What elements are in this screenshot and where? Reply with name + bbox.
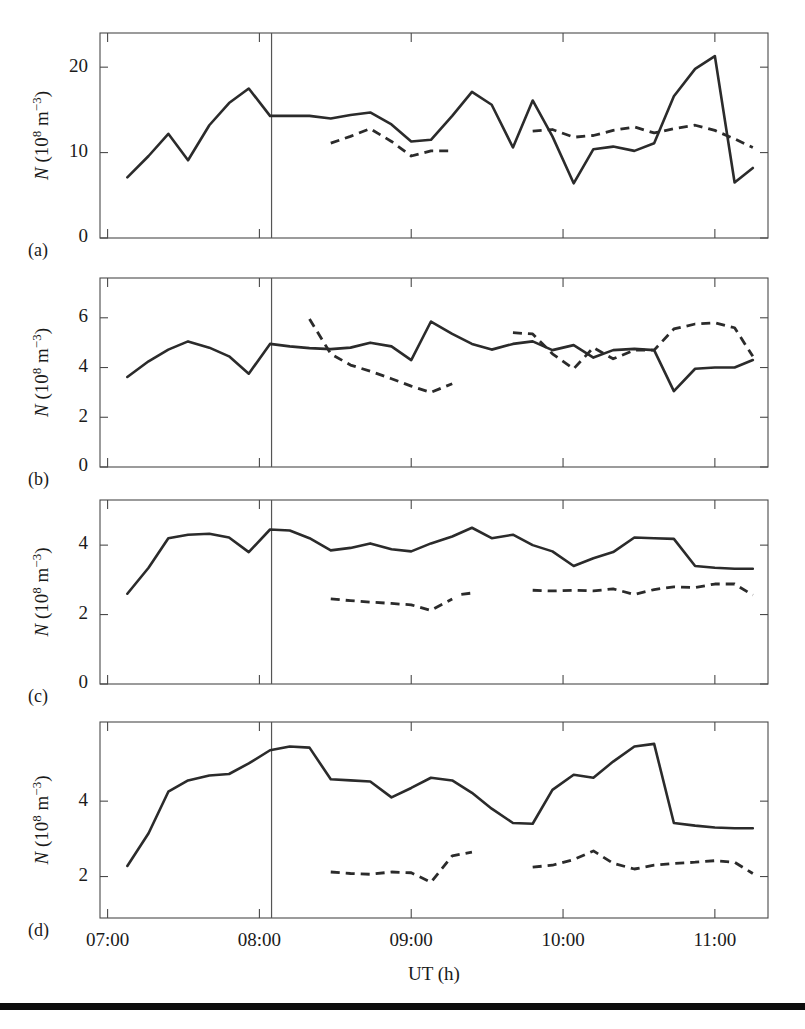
panel-d: 24N (108 m−3)(d) [28, 722, 768, 941]
series-line-dashed [310, 319, 453, 392]
y-tick-label: 10 [69, 140, 88, 161]
y-axis-title: N (108 m−3) [29, 776, 54, 866]
x-tick-label: 08:00 [238, 929, 281, 950]
y-axis-title: N (108 m−3) [29, 548, 54, 638]
y-tick-label: 4 [79, 355, 89, 376]
panel-frame [100, 722, 768, 918]
panel-a: 01020N (108 m−3)(a) [28, 33, 768, 261]
y-axis-title: N (108 m−3) [29, 91, 54, 181]
figure-root: 01020N (108 m−3)(a)0246N (108 m−3)(b)024… [0, 0, 805, 1029]
y-tick-label: 2 [79, 864, 89, 885]
shared-x-axis: 07:0008:0009:0010:0011:00UT (h) [86, 929, 736, 985]
panel-frame [100, 278, 768, 467]
y-axis-title: N (108 m−3) [29, 328, 54, 418]
panel-frame [100, 500, 768, 684]
series-line-dashed [533, 125, 753, 147]
bottom-rule [0, 1003, 805, 1010]
y-tick-label: 6 [79, 305, 89, 326]
series-line-solid [127, 744, 752, 866]
y-tick-label: 2 [79, 602, 89, 623]
y-tick-label: 0 [79, 671, 89, 692]
series-line-dashed [331, 852, 472, 882]
x-axis-title: UT (h) [408, 963, 460, 985]
multi-panel-line-chart: 01020N (108 m−3)(a)0246N (108 m−3)(b)024… [0, 0, 805, 1029]
series-line-solid [127, 56, 752, 183]
series-line-dashed [513, 323, 753, 369]
y-tick-label: 2 [79, 405, 89, 426]
x-tick-label: 11:00 [694, 929, 737, 950]
panels-group: 01020N (108 m−3)(a)0246N (108 m−3)(b)024… [28, 33, 768, 941]
panel-tag-a: (a) [28, 240, 48, 261]
series-line-dashed [533, 584, 753, 595]
series-line-solid [127, 322, 752, 392]
panel-tag-c: (c) [28, 686, 48, 707]
series-line-dashed [331, 129, 452, 156]
y-tick-label: 0 [79, 225, 89, 246]
panel-tag-d: (d) [28, 920, 49, 941]
y-tick-label: 20 [69, 55, 88, 76]
series-line-dashed [331, 599, 452, 610]
x-tick-label: 10:00 [541, 929, 584, 950]
panel-tag-b: (b) [28, 469, 49, 490]
x-tick-label: 09:00 [390, 929, 433, 950]
y-tick-label: 4 [79, 532, 89, 553]
x-tick-label: 07:00 [86, 929, 129, 950]
series-line-dashed [461, 593, 472, 594]
y-tick-label: 0 [79, 454, 89, 475]
y-tick-label: 4 [79, 789, 89, 810]
panel-c: 024N (108 m−3)(c) [28, 500, 768, 707]
series-line-dashed [533, 851, 753, 874]
panel-b: 0246N (108 m−3)(b) [28, 278, 768, 490]
series-line-solid [127, 528, 752, 594]
